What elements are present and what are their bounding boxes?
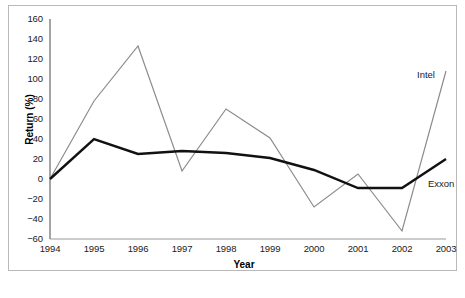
x-tick-label: 2000: [294, 243, 334, 254]
y-axis-title: Return (%): [24, 85, 35, 155]
x-tick-label: 2002: [382, 243, 422, 254]
x-tick-label: 1997: [162, 243, 202, 254]
x-tick-label: 1995: [74, 243, 114, 254]
y-tick-label: −20: [15, 193, 43, 204]
y-tick-label: 120: [15, 53, 43, 64]
series-line-intel: [50, 46, 446, 231]
x-axis-title: Year: [214, 259, 274, 270]
y-tick-label: 20: [15, 153, 43, 164]
x-tick-label: 2003: [426, 243, 465, 254]
x-tick-label: 2001: [338, 243, 378, 254]
y-tick-label: 160: [15, 13, 43, 24]
x-tick-label: 1998: [206, 243, 246, 254]
y-tick-label: −40: [15, 213, 43, 224]
series-label-exxon: Exxon: [428, 178, 454, 189]
y-tick-label: 100: [15, 73, 43, 84]
y-tick-label: 0: [15, 173, 43, 184]
series-label-intel: Intel: [417, 69, 435, 80]
x-tick-label: 1994: [30, 243, 70, 254]
figure-border: 160140120100806040200−20−40−60 199419951…: [8, 5, 457, 271]
chart-figure: 160140120100806040200−20−40−60 199419951…: [0, 0, 465, 298]
y-tick-label: 140: [15, 33, 43, 44]
x-tick-label: 1996: [118, 243, 158, 254]
series-line-exxon: [50, 139, 446, 188]
x-tick-label: 1999: [250, 243, 290, 254]
plot-area: [9, 6, 456, 270]
